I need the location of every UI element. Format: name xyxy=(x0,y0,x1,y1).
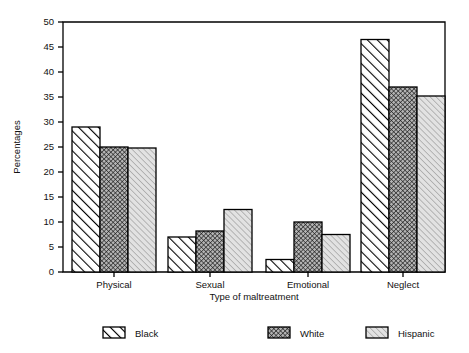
bar-neglect-black xyxy=(361,40,389,273)
legend-label-hispanic: Hispanic xyxy=(398,328,435,339)
bar-physical-white xyxy=(100,147,128,272)
y-tick-label: 10 xyxy=(43,216,54,227)
bar-sexual-white xyxy=(196,231,224,272)
chart-legend: BlackWhiteHispanic xyxy=(103,327,435,339)
y-tick-label: 25 xyxy=(43,141,54,152)
bar-emotional-hispanic xyxy=(322,235,350,273)
x-tick-label-neglect: Neglect xyxy=(387,279,420,290)
y-tick-label: 35 xyxy=(43,91,54,102)
bar-neglect-white xyxy=(389,87,417,272)
x-tick-label-physical: Physical xyxy=(96,279,131,290)
legend-swatch-white xyxy=(268,327,290,338)
bar-sexual-hispanic xyxy=(224,210,252,273)
y-axis-title: Percentages xyxy=(11,120,22,174)
bar-physical-hispanic xyxy=(128,148,156,272)
legend-label-black: Black xyxy=(135,328,158,339)
x-axis-title: Type of maltreatment xyxy=(209,291,299,302)
bar-emotional-black xyxy=(266,260,294,273)
y-tick-label: 15 xyxy=(43,191,54,202)
y-tick-label: 30 xyxy=(43,116,54,127)
y-tick-label: 45 xyxy=(43,41,54,52)
y-tick-label: 50 xyxy=(43,16,54,27)
y-tick-label: 20 xyxy=(43,166,54,177)
legend-label-white: White xyxy=(300,328,324,339)
x-tick-label-sexual: Sexual xyxy=(195,279,224,290)
x-tick-label-emotional: Emotional xyxy=(287,279,329,290)
bar-physical-black xyxy=(72,127,100,272)
y-tick-label: 40 xyxy=(43,66,54,77)
bar-sexual-black xyxy=(168,237,196,272)
legend-swatch-black xyxy=(103,327,125,338)
y-tick-label: 0 xyxy=(49,266,54,277)
bar-neglect-hispanic xyxy=(417,96,445,272)
chart-canvas: 05101520253035404550 Percentages Physica… xyxy=(0,0,469,353)
legend-swatch-hispanic xyxy=(366,327,388,338)
bar-chart: 05101520253035404550 Percentages Physica… xyxy=(0,0,469,353)
y-tick-label: 5 xyxy=(49,241,54,252)
bar-emotional-white xyxy=(294,222,322,272)
